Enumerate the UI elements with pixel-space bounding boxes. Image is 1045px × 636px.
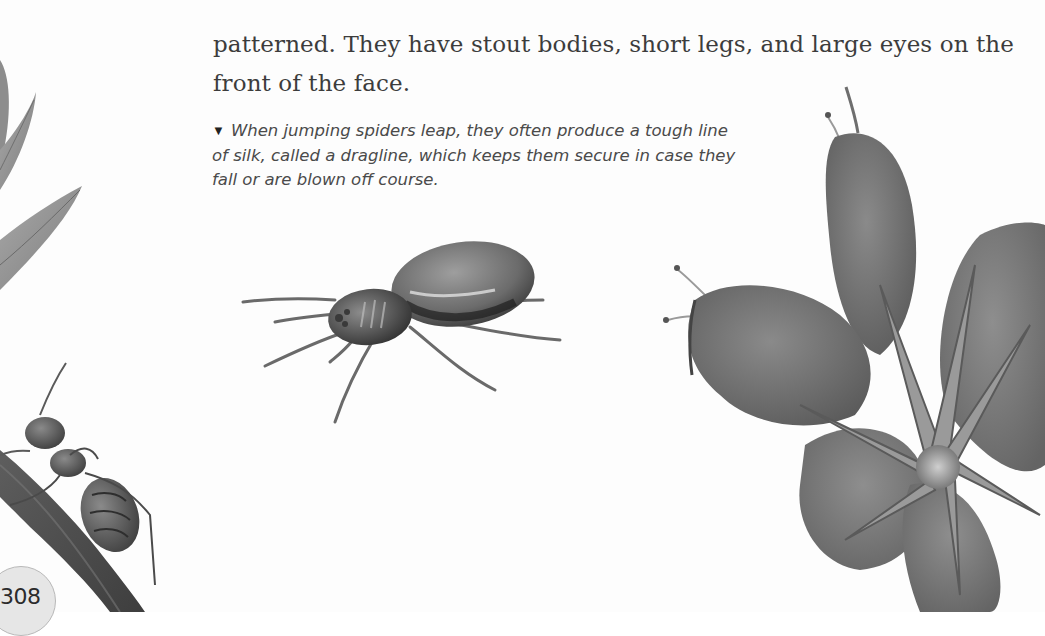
body-text-line: patterned. They have stout bodies, short… bbox=[213, 25, 903, 64]
caption-line: of silk, called a dragline, which keeps … bbox=[212, 144, 812, 168]
caption-line: fall or are blown off course. bbox=[212, 168, 812, 192]
figure-caption: ▼When jumping spiders leap, they often p… bbox=[212, 119, 812, 192]
caption-line: When jumping spiders leap, they often pr… bbox=[231, 121, 728, 140]
leaves-illustration bbox=[0, 0, 90, 340]
page-number: 308 bbox=[0, 584, 41, 609]
jumping-spider-illustration bbox=[235, 232, 570, 427]
body-text-line: front of the face. bbox=[213, 64, 903, 103]
caption-pointer-icon: ▼ bbox=[212, 119, 225, 143]
body-text: patterned. They have stout bodies, short… bbox=[213, 0, 903, 103]
